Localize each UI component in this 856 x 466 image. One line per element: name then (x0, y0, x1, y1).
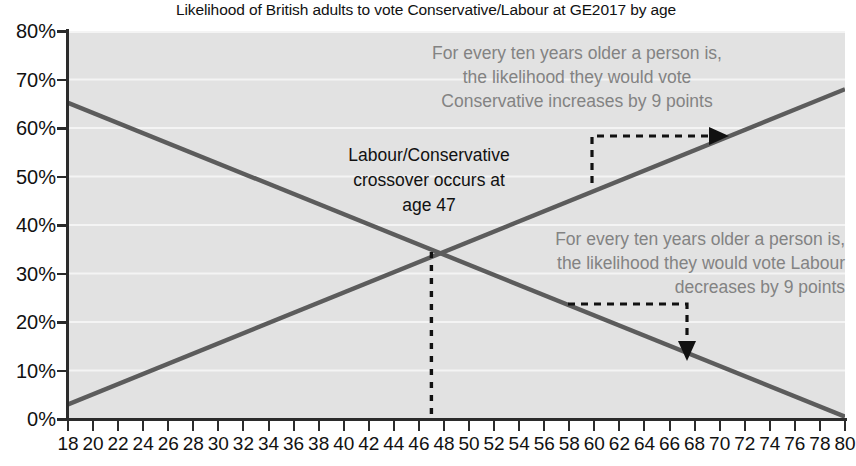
x-tick-label-20: 20 (82, 434, 103, 453)
x-tick-mark-40 (343, 420, 345, 431)
y-tick-label-0: 0% (27, 409, 56, 429)
x-tick-mark-38 (318, 420, 320, 431)
x-tick-mark-20 (92, 420, 94, 431)
x-tick-label-32: 32 (233, 434, 254, 453)
annotation-crossover: Labour/Conservative crossover occurs at … (300, 143, 558, 218)
annotation-conservative-line-3: Conservative increases by 9 points (388, 90, 766, 114)
x-axis-line (66, 418, 847, 421)
x-tick-mark-44 (393, 420, 395, 431)
x-tick-label-68: 68 (684, 434, 705, 453)
x-tick-label-64: 64 (634, 434, 655, 453)
y-tick-mark-60 (57, 127, 67, 130)
x-tick-mark-74 (769, 420, 771, 431)
y-tick-label-10: 10% (16, 361, 56, 381)
x-tick-mark-22 (117, 420, 119, 431)
x-tick-label-50: 50 (458, 434, 479, 453)
x-tick-mark-76 (794, 420, 796, 431)
x-tick-label-44: 44 (383, 434, 404, 453)
x-tick-mark-46 (418, 420, 420, 431)
x-tick-mark-60 (593, 420, 595, 431)
y-tick-label-30: 30% (16, 264, 56, 284)
x-tick-mark-78 (819, 420, 821, 431)
x-tick-mark-30 (217, 420, 219, 431)
x-tick-label-52: 52 (484, 434, 505, 453)
x-tick-mark-42 (368, 420, 370, 431)
y-tick-label-20: 20% (16, 312, 56, 332)
x-tick-mark-80 (844, 420, 846, 431)
x-tick-label-34: 34 (258, 434, 279, 453)
x-tick-label-46: 46 (408, 434, 429, 453)
annotation-conservative-line-2: the likelihood they would vote (388, 66, 766, 90)
annotation-labour-line-3: decreases by 9 points (480, 276, 845, 300)
annotation-labour-line-2: the likelihood they would vote Labour (480, 252, 845, 276)
x-tick-label-76: 76 (784, 434, 805, 453)
x-tick-mark-62 (618, 420, 620, 431)
x-tick-mark-50 (468, 420, 470, 431)
x-tick-mark-24 (142, 420, 144, 431)
x-tick-label-74: 74 (759, 434, 780, 453)
annotation-crossover-line-3: age 47 (300, 193, 558, 218)
x-tick-label-70: 70 (709, 434, 730, 453)
x-tick-mark-56 (543, 420, 545, 431)
x-tick-mark-58 (568, 420, 570, 431)
x-tick-mark-54 (518, 420, 520, 431)
chart-title: Likelihood of British adults to vote Con… (0, 1, 852, 19)
x-tick-label-72: 72 (734, 434, 755, 453)
annotation-conservative-line-1: For every ten years older a person is, (388, 42, 766, 66)
x-tick-label-40: 40 (333, 434, 354, 453)
x-tick-mark-70 (719, 420, 721, 431)
annotation-labour-line-1: For every ten years older a person is, (480, 228, 845, 252)
x-tick-label-54: 54 (509, 434, 530, 453)
x-tick-mark-48 (443, 420, 445, 431)
annotation-labour: For every ten years older a person is, t… (480, 228, 845, 300)
x-tick-label-62: 62 (609, 434, 630, 453)
x-tick-label-58: 58 (559, 434, 580, 453)
y-tick-label-40: 40% (16, 215, 56, 235)
x-tick-mark-28 (192, 420, 194, 431)
x-tick-label-30: 30 (208, 434, 229, 453)
y-tick-mark-40 (57, 224, 67, 227)
y-tick-mark-20 (57, 321, 67, 324)
y-tick-label-50: 50% (16, 167, 56, 187)
x-tick-label-26: 26 (158, 434, 179, 453)
x-tick-label-66: 66 (659, 434, 680, 453)
x-tick-mark-68 (694, 420, 696, 431)
x-tick-label-60: 60 (584, 434, 605, 453)
x-tick-label-78: 78 (809, 434, 830, 453)
x-tick-mark-32 (242, 420, 244, 431)
x-tick-label-42: 42 (358, 434, 379, 453)
annotation-crossover-line-2: crossover occurs at (300, 168, 558, 193)
y-tick-label-80: 80% (16, 21, 56, 41)
x-tick-label-80: 80 (834, 434, 855, 453)
callout-arrow-conservative (592, 127, 729, 183)
x-tick-label-56: 56 (534, 434, 555, 453)
x-tick-label-38: 38 (308, 434, 329, 453)
x-tick-mark-66 (669, 420, 671, 431)
x-tick-mark-18 (67, 420, 69, 431)
y-tick-mark-0 (57, 418, 67, 421)
annotation-crossover-line-1: Labour/Conservative (300, 143, 558, 168)
y-tick-mark-50 (57, 176, 67, 179)
y-tick-label-70: 70% (16, 70, 56, 90)
y-tick-mark-80 (57, 30, 67, 33)
y-tick-label-60: 60% (16, 118, 56, 138)
annotation-conservative: For every ten years older a person is, t… (388, 42, 766, 114)
x-tick-label-48: 48 (433, 434, 454, 453)
y-tick-mark-70 (57, 79, 67, 82)
x-tick-mark-52 (493, 420, 495, 431)
x-tick-label-18: 18 (57, 434, 78, 453)
x-tick-mark-64 (643, 420, 645, 431)
y-tick-mark-30 (57, 273, 67, 276)
x-tick-mark-34 (268, 420, 270, 431)
x-tick-mark-26 (167, 420, 169, 431)
y-tick-mark-10 (57, 370, 67, 373)
x-tick-mark-72 (744, 420, 746, 431)
x-tick-label-36: 36 (283, 434, 304, 453)
x-tick-label-28: 28 (183, 434, 204, 453)
x-tick-label-24: 24 (133, 434, 154, 453)
x-tick-mark-36 (293, 420, 295, 431)
x-tick-label-22: 22 (108, 434, 129, 453)
